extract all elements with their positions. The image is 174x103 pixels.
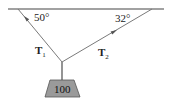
tension-subscript: 1 bbox=[42, 51, 46, 59]
weight-value: 100 bbox=[54, 84, 71, 95]
tension-label-t1: T1 bbox=[35, 45, 46, 59]
tension-subscript: 2 bbox=[105, 53, 109, 61]
force-diagram: 50° 32° T1 T2 100 bbox=[0, 0, 174, 103]
tension-label-t2: T2 bbox=[98, 47, 109, 61]
diagram-canvas bbox=[0, 0, 174, 103]
arrow-t2-icon bbox=[111, 30, 117, 35]
angle-label-t1: 50° bbox=[34, 12, 49, 23]
angle-label-t2: 32° bbox=[115, 13, 130, 24]
arrow-t1-icon bbox=[24, 16, 29, 22]
